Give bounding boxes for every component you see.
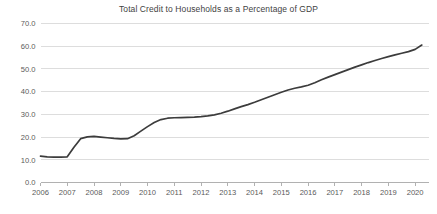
x-axis-tick-label: 2019 <box>380 188 397 197</box>
x-axis-tick-label: 2008 <box>86 188 103 197</box>
data-series-line <box>41 45 422 157</box>
x-axis-tick-label: 2017 <box>326 188 343 197</box>
y-axis-tick-label: 60.0 <box>21 42 36 51</box>
y-axis-tick-label: 30.0 <box>21 110 36 119</box>
x-axis-labels-group: 2006200720082009201020112012201320142015… <box>32 188 424 197</box>
y-axis-tick-label: 70.0 <box>21 19 36 28</box>
y-axis-tick-label: 10.0 <box>21 156 36 165</box>
x-axis-tick-label: 2006 <box>32 188 49 197</box>
x-axis-tick-label: 2020 <box>407 188 424 197</box>
x-axis-tick-label: 2007 <box>59 188 76 197</box>
x-axis-tick-label: 2016 <box>300 188 317 197</box>
line-chart-plot: 0.010.020.030.040.050.060.070.0 20062007… <box>0 0 437 214</box>
y-axis-tick-label: 0.0 <box>25 178 36 187</box>
x-axis-tick-label: 2018 <box>353 188 370 197</box>
y-axis-tick-label: 40.0 <box>21 87 36 96</box>
y-axis-tick-label: 50.0 <box>21 65 36 74</box>
x-axis-tick-label: 2014 <box>246 188 263 197</box>
y-axis-labels-group: 0.010.020.030.040.050.060.070.0 <box>21 19 36 187</box>
x-axis-group <box>41 183 429 186</box>
x-axis-tick-label: 2010 <box>139 188 156 197</box>
y-axis-tick-label: 20.0 <box>21 133 36 142</box>
x-axis-tick-label: 2015 <box>273 188 290 197</box>
chart-container: Total Credit to Households as a Percenta… <box>0 0 437 214</box>
x-axis-tick-label: 2009 <box>112 188 129 197</box>
series-group <box>41 45 422 157</box>
x-axis-tick-label: 2013 <box>219 188 236 197</box>
x-axis-tick-label: 2011 <box>166 188 182 197</box>
x-axis-tick-label: 2012 <box>193 188 210 197</box>
gridlines-group <box>41 24 429 160</box>
